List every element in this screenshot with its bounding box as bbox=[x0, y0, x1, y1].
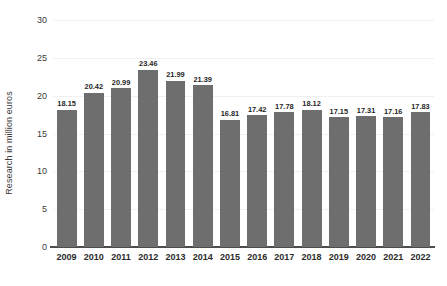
bar bbox=[247, 115, 267, 247]
bar-slot: 17.31 bbox=[352, 20, 379, 247]
bar-slot: 17.78 bbox=[271, 20, 298, 247]
x-tick-label: 2018 bbox=[298, 252, 325, 262]
bar bbox=[411, 112, 431, 247]
bar bbox=[111, 88, 131, 247]
bar bbox=[329, 117, 349, 247]
bar-slot: 17.42 bbox=[244, 20, 271, 247]
y-tick-label: 5 bbox=[42, 204, 47, 214]
x-tick-label: 2019 bbox=[325, 252, 352, 262]
bar-series: 18.1520.4220.9923.4621.9921.3916.8117.42… bbox=[53, 20, 434, 247]
y-tick-label: 10 bbox=[37, 166, 47, 176]
bar-value-label: 21.39 bbox=[193, 75, 212, 84]
bar bbox=[220, 120, 240, 247]
bar bbox=[302, 110, 322, 247]
x-tick-label: 2011 bbox=[107, 252, 134, 262]
bar-value-label: 16.81 bbox=[221, 109, 240, 118]
x-tick-label: 2009 bbox=[53, 252, 80, 262]
x-tick-label: 2014 bbox=[189, 252, 216, 262]
x-tick-label: 2022 bbox=[407, 252, 434, 262]
y-axis-title: Research in million euros bbox=[0, 0, 18, 286]
bar-value-label: 17.78 bbox=[275, 102, 294, 111]
x-tick-label: 2021 bbox=[380, 252, 407, 262]
y-tick-label: 30 bbox=[37, 15, 47, 25]
bar-value-label: 17.16 bbox=[384, 107, 403, 116]
bar-value-label: 17.83 bbox=[411, 102, 430, 111]
y-tick-label: 0 bbox=[42, 242, 47, 252]
bar-slot: 21.39 bbox=[189, 20, 216, 247]
bar-slot: 23.46 bbox=[135, 20, 162, 247]
bar-chart: Research in million euros 051015202530 1… bbox=[0, 0, 447, 286]
bar-slot: 20.99 bbox=[107, 20, 134, 247]
bar bbox=[138, 70, 158, 248]
bar-value-label: 21.99 bbox=[166, 70, 185, 79]
bar-slot: 21.99 bbox=[162, 20, 189, 247]
bar-value-label: 17.31 bbox=[357, 106, 376, 115]
bar bbox=[166, 81, 186, 247]
bar-value-label: 20.99 bbox=[112, 78, 131, 87]
bar-value-label: 17.42 bbox=[248, 105, 267, 114]
bar-value-label: 17.15 bbox=[330, 107, 349, 116]
bar bbox=[84, 93, 104, 248]
x-tick-label: 2010 bbox=[80, 252, 107, 262]
bar bbox=[57, 110, 77, 247]
bar bbox=[356, 116, 376, 247]
y-tick-label: 25 bbox=[37, 53, 47, 63]
bar-slot: 17.16 bbox=[380, 20, 407, 247]
bar-value-label: 18.15 bbox=[57, 99, 76, 108]
x-tick-label: 2013 bbox=[162, 252, 189, 262]
x-tick-label: 2017 bbox=[271, 252, 298, 262]
x-tick-label: 2016 bbox=[244, 252, 271, 262]
bar-slot: 17.83 bbox=[407, 20, 434, 247]
bar-slot: 18.12 bbox=[298, 20, 325, 247]
x-tick-label: 2012 bbox=[135, 252, 162, 262]
bar bbox=[274, 112, 294, 247]
bar-value-label: 18.12 bbox=[302, 99, 321, 108]
bar bbox=[383, 117, 403, 247]
bar-value-label: 23.46 bbox=[139, 59, 158, 68]
x-tick-label: 2020 bbox=[352, 252, 379, 262]
y-tick-label: 15 bbox=[37, 129, 47, 139]
bar-slot: 20.42 bbox=[80, 20, 107, 247]
bar-slot: 16.81 bbox=[216, 20, 243, 247]
bar bbox=[193, 85, 213, 247]
bar-slot: 18.15 bbox=[53, 20, 80, 247]
x-axis-tick-labels: 2009201020112012201320142015201620172018… bbox=[53, 252, 434, 262]
bar-value-label: 20.42 bbox=[85, 82, 104, 91]
x-tick-label: 2015 bbox=[216, 252, 243, 262]
bar-slot: 17.15 bbox=[325, 20, 352, 247]
y-tick-label: 20 bbox=[37, 91, 47, 101]
